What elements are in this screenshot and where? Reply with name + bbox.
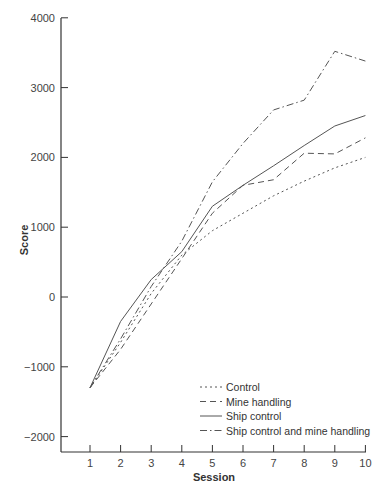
x-tick-label: 2 [118,457,124,469]
legend-label: Ship control [226,410,281,422]
y-axis-label: Score [18,225,30,256]
x-tick-label: 10 [359,457,371,469]
series-line-ship-control [90,116,365,388]
legend-label: Control [226,381,260,393]
y-tick-label: 2000 [31,151,55,163]
x-tick-label: 7 [271,457,277,469]
series-lines [90,51,365,387]
series-line-mine-handling [90,138,365,388]
x-axis-label: Session [193,471,235,483]
y-tick-label: −1000 [24,361,55,373]
legend: ControlMine handlingShip controlShip con… [200,381,370,437]
axes: −2000−10000100020003000400012345678910 [24,12,371,469]
x-tick-label: 8 [301,457,307,469]
y-tick-label: 0 [49,291,55,303]
series-line-ship-control-and-mine-handling [90,51,365,387]
y-tick-label: −2000 [24,431,55,443]
x-tick-label: 1 [87,457,93,469]
y-tick-label: 3000 [31,82,55,94]
line-chart: −2000−10000100020003000400012345678910 C… [0,0,380,487]
x-tick-label: 9 [332,457,338,469]
legend-label: Mine handling [226,396,292,408]
y-tick-label: 4000 [31,12,55,24]
y-tick-label: 1000 [31,221,55,233]
x-tick-label: 4 [179,457,185,469]
x-tick-label: 5 [209,457,215,469]
legend-label: Ship control and mine handling [226,425,370,437]
x-tick-label: 6 [240,457,246,469]
x-tick-label: 3 [148,457,154,469]
series-line-control [90,157,365,387]
